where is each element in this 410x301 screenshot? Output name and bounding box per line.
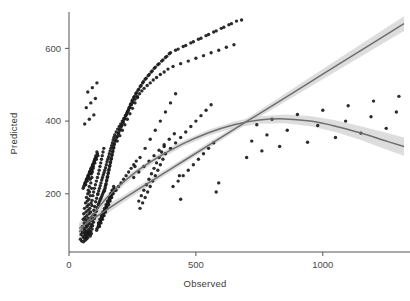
plot-area: 20040060005001000 xyxy=(0,0,410,301)
data-point xyxy=(156,168,159,171)
data-point xyxy=(90,199,93,202)
data-point xyxy=(92,161,95,164)
data-point xyxy=(184,130,187,133)
data-point xyxy=(124,174,127,177)
data-point xyxy=(93,187,96,190)
data-point xyxy=(96,176,99,179)
data-point xyxy=(88,207,91,210)
data-point xyxy=(99,184,102,187)
data-point xyxy=(154,66,157,69)
data-point xyxy=(265,133,268,136)
x-axis-title: Observed xyxy=(0,278,410,289)
data-point xyxy=(135,159,138,162)
data-point xyxy=(199,114,202,117)
data-point xyxy=(99,161,102,164)
data-point xyxy=(157,62,160,65)
data-point xyxy=(98,168,101,171)
data-point xyxy=(235,19,238,22)
data-point xyxy=(97,172,100,175)
data-point xyxy=(136,96,139,99)
data-point xyxy=(138,207,141,210)
data-point xyxy=(96,225,99,228)
data-point xyxy=(316,124,319,127)
y-tick-label: 400 xyxy=(45,115,61,126)
data-point xyxy=(250,139,253,142)
data-point xyxy=(83,122,86,125)
data-point xyxy=(92,113,95,116)
data-point xyxy=(169,101,172,104)
data-point xyxy=(106,203,109,206)
data-point xyxy=(94,97,97,100)
data-point xyxy=(187,168,190,171)
data-point xyxy=(161,158,164,161)
data-point xyxy=(166,67,169,70)
data-point xyxy=(286,128,289,131)
data-point xyxy=(127,170,130,173)
data-point xyxy=(138,156,141,159)
data-point xyxy=(133,101,136,104)
data-point xyxy=(84,179,87,182)
y-tick-label: 200 xyxy=(45,188,61,199)
data-point xyxy=(87,172,90,175)
data-point xyxy=(102,147,105,150)
data-point xyxy=(86,176,89,179)
data-point xyxy=(152,78,155,81)
data-point xyxy=(105,163,108,166)
data-point xyxy=(230,22,233,25)
data-point xyxy=(101,150,104,153)
data-point xyxy=(155,161,158,164)
x-tick-label: 1000 xyxy=(312,259,333,270)
data-point xyxy=(140,89,143,92)
data-point xyxy=(168,138,171,141)
data-point xyxy=(94,183,97,186)
data-point xyxy=(154,128,157,131)
data-point xyxy=(142,188,145,191)
data-point xyxy=(222,26,225,29)
data-point xyxy=(204,108,207,111)
data-point xyxy=(121,128,124,131)
scatter-chart: 20040060005001000 Predicted Observed xyxy=(0,0,410,301)
data-point xyxy=(176,47,179,50)
data-point xyxy=(192,163,195,166)
data-point xyxy=(143,196,146,199)
data-point xyxy=(260,149,263,152)
data-point xyxy=(149,81,152,84)
y-tick-label: 600 xyxy=(45,43,61,54)
data-point xyxy=(372,99,375,102)
data-point xyxy=(149,185,152,188)
data-point xyxy=(344,119,347,122)
data-point xyxy=(215,29,218,32)
data-point xyxy=(132,176,135,179)
data-point xyxy=(385,127,388,130)
data-point xyxy=(91,224,94,227)
data-point xyxy=(98,221,101,224)
data-point xyxy=(202,152,205,155)
data-point xyxy=(155,76,158,79)
data-point xyxy=(129,167,132,170)
data-point xyxy=(150,172,153,175)
data-point xyxy=(90,232,93,235)
data-point xyxy=(232,43,235,46)
data-point xyxy=(126,118,129,121)
data-point xyxy=(296,113,299,116)
data-point xyxy=(164,110,167,113)
data-point xyxy=(82,187,85,190)
confidence-bands xyxy=(79,16,404,238)
data-point xyxy=(182,174,185,177)
data-point xyxy=(146,190,149,193)
data-point xyxy=(88,118,91,121)
data-point xyxy=(90,165,93,168)
data-point xyxy=(100,158,103,161)
data-point xyxy=(306,140,309,143)
data-point xyxy=(101,214,104,217)
data-point xyxy=(369,115,372,118)
data-point xyxy=(171,185,174,188)
data-point xyxy=(194,119,197,122)
data-point xyxy=(118,134,121,137)
data-point xyxy=(95,179,98,182)
data-point xyxy=(141,201,144,204)
data-point xyxy=(255,123,258,126)
data-point xyxy=(159,73,162,76)
data-point xyxy=(89,168,92,171)
data-point xyxy=(189,125,192,128)
